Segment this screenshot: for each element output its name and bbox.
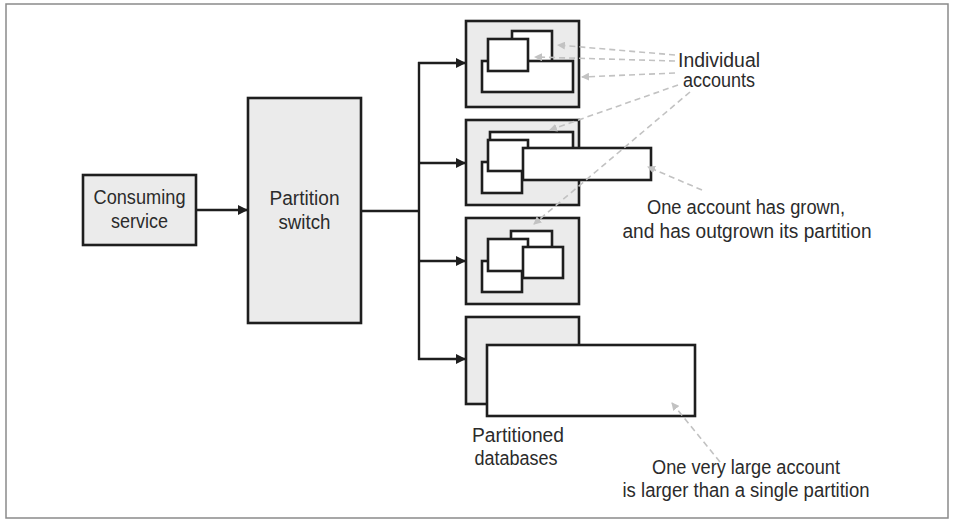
callout-very-large-account: One very large account is larger than a …	[623, 456, 870, 501]
partition-switch-label-line1: Partition	[270, 187, 340, 209]
partitioned-databases-line1: Partitioned	[472, 424, 564, 446]
partition-switch-box: Partition switch	[248, 98, 361, 323]
partition-switch-label-line2: switch	[279, 211, 331, 233]
account	[523, 247, 563, 278]
partitioned-databases-label: Partitioned databases	[472, 424, 564, 469]
partition-diagram: Consuming service Partition switch	[0, 0, 955, 522]
partition-3	[466, 218, 579, 304]
very-large-account	[487, 345, 695, 416]
partition-1	[466, 21, 579, 107]
callout-individual-accounts: Individual accounts	[678, 49, 760, 91]
consuming-service-label-line2: service	[111, 210, 168, 232]
individual-accounts-line2: accounts	[683, 69, 755, 91]
partitioned-databases-line2: databases	[475, 447, 558, 469]
outgrown-account	[523, 148, 651, 180]
individual-accounts-line1: Individual	[678, 49, 760, 71]
account	[488, 39, 528, 71]
outgrown-line2: and has outgrown its partition	[623, 220, 872, 242]
very-large-line2: is larger than a single partition	[623, 479, 870, 501]
consuming-service-label-line1: Consuming	[94, 186, 186, 208]
very-large-line1: One very large account	[652, 456, 840, 478]
consuming-service-box: Consuming service	[83, 175, 196, 245]
outgrown-line1: One account has grown,	[647, 196, 845, 218]
